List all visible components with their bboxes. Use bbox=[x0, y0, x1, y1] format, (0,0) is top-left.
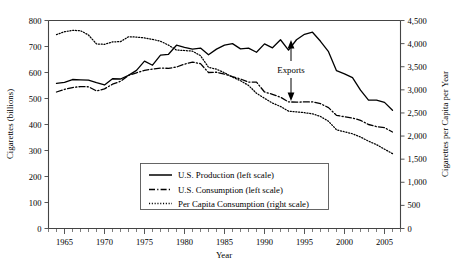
x-tick-label: 1965 bbox=[56, 237, 73, 247]
x-tick-label: 1970 bbox=[96, 237, 113, 247]
right-tick-label: 3,500 bbox=[408, 62, 427, 72]
x-tick-label: 2000 bbox=[336, 237, 353, 247]
right-tick-label: 1,500 bbox=[408, 154, 427, 164]
x-tick-label: 1975 bbox=[136, 237, 153, 247]
x-tick-label: 1995 bbox=[296, 237, 313, 247]
x-axis-title: Year bbox=[216, 250, 232, 260]
legend-label-us-production: U.S. Production (left scale) bbox=[178, 170, 274, 180]
x-tick-label: 1980 bbox=[176, 237, 193, 247]
left-tick-label: 400 bbox=[29, 120, 42, 130]
exports-annotation: Exports bbox=[277, 40, 305, 101]
right-tick-label: 2,500 bbox=[408, 108, 427, 118]
right-tick-label: 0 bbox=[408, 224, 412, 234]
exports-arrow-down-head bbox=[288, 93, 295, 102]
y-axis-title: Cigarettes (billions) bbox=[5, 89, 15, 159]
left-tick-label: 0 bbox=[37, 224, 41, 234]
x-tick-label: 1985 bbox=[216, 237, 233, 247]
left-axis-ticks: 0100200300400500600700800 bbox=[29, 16, 49, 234]
left-tick-label: 800 bbox=[29, 16, 42, 26]
right-tick-label: 500 bbox=[408, 200, 421, 210]
legend: U.S. Production (left scale) U.S. Consum… bbox=[141, 164, 329, 210]
right-tick-label: 4,000 bbox=[408, 39, 427, 49]
series-line-per-capita-consumption bbox=[57, 30, 393, 153]
left-tick-label: 600 bbox=[29, 68, 42, 78]
y2-axis-title: Cigarettes per Capita per Year bbox=[440, 71, 450, 177]
right-tick-label: 2,000 bbox=[408, 131, 427, 141]
legend-label-per-capita-consumption: Per Capita Consumption (right scale) bbox=[178, 199, 309, 209]
x-tick-label: 1990 bbox=[256, 237, 273, 247]
x-axis-ticks: 196519701975198019851990199520002005 bbox=[49, 229, 401, 247]
data-series-group bbox=[57, 30, 393, 153]
legend-label-us-consumption: U.S. Consumption (left scale) bbox=[178, 185, 283, 195]
right-tick-label: 3,000 bbox=[408, 85, 427, 95]
right-tick-label: 1,000 bbox=[408, 177, 427, 187]
figure-container: 0100200300400500600700800 05001,0001,500… bbox=[0, 0, 458, 267]
left-tick-label: 700 bbox=[29, 42, 42, 52]
left-tick-label: 500 bbox=[29, 94, 42, 104]
left-tick-label: 200 bbox=[29, 172, 42, 182]
left-tick-label: 100 bbox=[29, 198, 42, 208]
cigarette-production-consumption-chart: 0100200300400500600700800 05001,0001,500… bbox=[0, 0, 458, 267]
right-tick-label: 4,500 bbox=[408, 16, 427, 26]
right-axis-ticks: 05001,0001,5002,0002,5003,0003,5004,0004… bbox=[401, 16, 427, 234]
left-tick-label: 300 bbox=[29, 146, 42, 156]
x-tick-label: 2005 bbox=[376, 237, 393, 247]
exports-annotation-label: Exports bbox=[277, 65, 305, 75]
